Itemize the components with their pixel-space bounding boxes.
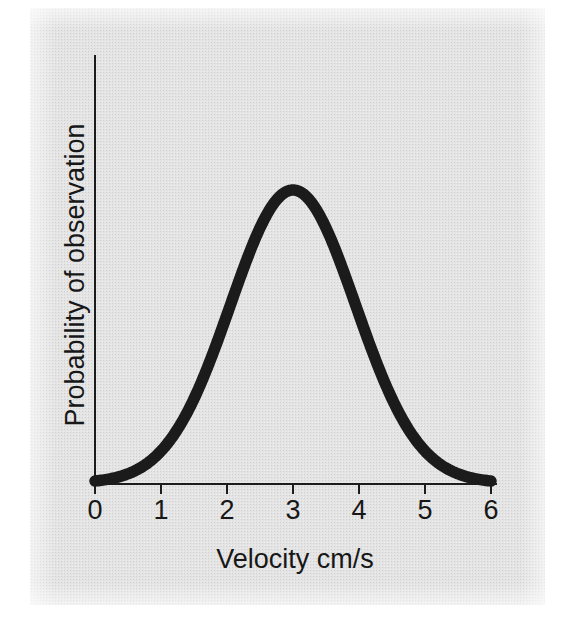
probability-distribution-curve [95, 190, 491, 481]
x-tick-label-1: 1 [141, 497, 181, 524]
figure-container: 0 1 2 3 4 5 6 Velocity cm/s Probability … [0, 0, 563, 633]
x-tick-label-2: 2 [207, 497, 247, 524]
x-tick-label-5: 5 [405, 497, 445, 524]
x-tick-label-4: 4 [339, 497, 379, 524]
x-tick-label-0: 0 [75, 497, 115, 524]
y-axis-label: Probability of observation [62, 60, 89, 490]
x-axis-label: Velocity cm/s [95, 546, 495, 573]
x-tick-label-6: 6 [471, 497, 511, 524]
x-tick-label-3: 3 [273, 497, 313, 524]
x-axis-ticks [95, 484, 491, 494]
